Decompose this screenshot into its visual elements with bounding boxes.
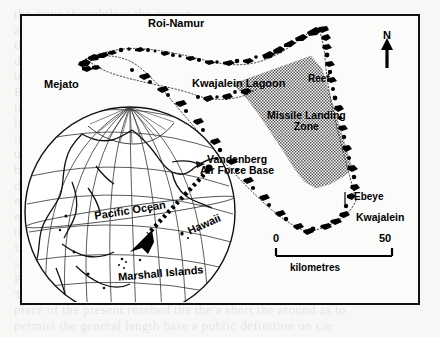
label-missile-landing-zone: Missile Landing Zone (267, 110, 346, 132)
page-bleed-line: permits the general length base a public… (14, 318, 333, 334)
scale-bar-units-label: kilometres (290, 263, 340, 274)
scanned-page-background: the drive thoughtless the reasona proble… (0, 0, 440, 337)
north-arrow-label: N (383, 30, 391, 42)
label-reef: Reef (308, 74, 330, 85)
map-frame: Roi-Namur Mejato Kwajalein Lagoon Reef M… (20, 14, 420, 305)
label-mejato: Mejato (44, 79, 79, 91)
label-vandenberg-air-force-base: Vandenberg Air Force Base (200, 154, 274, 176)
label-vandenberg-line2: Air Force Base (200, 164, 274, 176)
label-kwajalein: Kwajalein (356, 212, 404, 223)
scale-bar-max-label: 50 (379, 233, 391, 245)
globe-hawaii-dot (181, 232, 184, 235)
scale-bar-min-label: 0 (273, 233, 279, 245)
label-kwajalein-lagoon: Kwajalein Lagoon (192, 78, 286, 90)
label-missile-landing-zone-line2: Zone (294, 120, 319, 132)
label-roi-namur: Roi-Namur (148, 18, 204, 30)
label-ebeye: Ebeye (354, 192, 383, 203)
